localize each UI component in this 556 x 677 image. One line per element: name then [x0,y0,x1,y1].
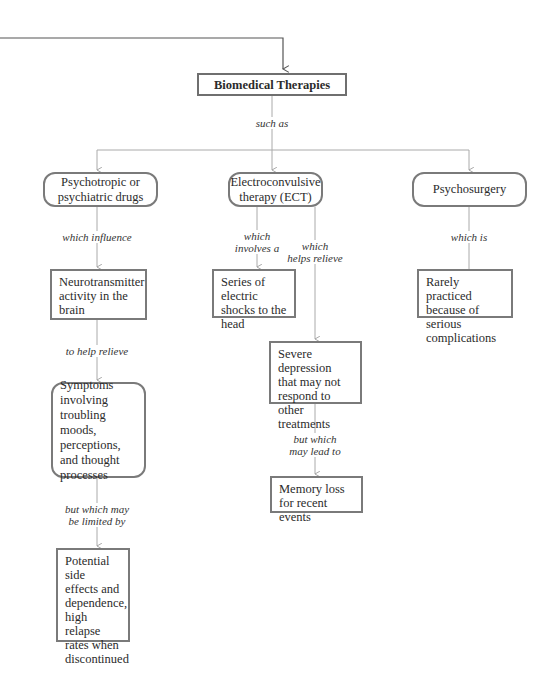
edge-label-which-is: which is [451,231,487,243]
edge-label-which-involves-a: which involves a [235,230,279,254]
edge-label-but-which-may-be-limited-by: but which may be limited by [65,503,129,527]
node-severe-depression: Severe depression that may not respond t… [269,341,362,404]
node-memory-loss: Memory loss for recent events [270,476,363,513]
node-symptoms: Symptoms involving troubling moods, perc… [51,382,146,478]
node-psychosurgery: Psychosurgery [412,172,527,207]
node-psychotropic-drugs: Psychotropic or psychiatric drugs [43,172,158,207]
edge-label-such-as: such as [256,117,289,129]
node-rarely-practiced: Rarely practiced because of serious comp… [417,269,513,318]
node-potential-side-effects: Potential side effects and dependence, h… [56,548,130,642]
node-ect: Electroconvulsive therapy (ECT) [228,172,323,207]
node-series-of-electric-shocks: Series of electric shocks to the head [212,269,296,318]
incoming-arrow [0,38,283,69]
edge-label-but-which-may-lead-to: but which may lead to [289,433,340,457]
edge-label-to-help-relieve: to help relieve [66,345,129,357]
node-neurotransmitter-activity: Neurotransmitter activity in the brain [50,269,147,320]
edge-label-which-influence: which influence [62,231,131,243]
edge-label-which-helps-relieve: which helps relieve [287,240,342,264]
node-biomedical-therapies: Biomedical Therapies [197,73,347,96]
